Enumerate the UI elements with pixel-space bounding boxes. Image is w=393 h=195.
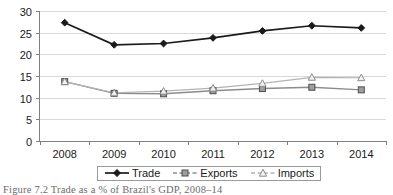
diamond-marker-icon	[104, 167, 130, 179]
legend-marker	[114, 169, 121, 176]
data-point-trade-2008	[61, 19, 68, 26]
data-point-trade-2013	[308, 22, 315, 29]
legend-item-trade: Trade	[104, 167, 160, 179]
legend-label: Exports	[200, 168, 237, 179]
x-axis-tick-label: 2013	[300, 148, 324, 160]
figure-container: 051015202530 200820092010201120122013201…	[0, 0, 393, 195]
y-axis-tick-label: 5	[26, 114, 32, 126]
legend-marker	[182, 170, 188, 176]
data-point-trade-2010	[160, 40, 167, 47]
y-axis-tick-label: 25	[20, 28, 32, 40]
x-axis-tick-label: 2010	[151, 148, 175, 160]
gridlines-group	[40, 12, 386, 120]
data-point-exports-2014	[358, 87, 364, 93]
y-axis-tick-label: 0	[26, 136, 32, 148]
data-point-trade-2014	[358, 25, 365, 32]
y-axis-tick-label: 30	[20, 6, 32, 18]
x-axis-tick-label: 2012	[250, 148, 274, 160]
x-axis-tick-label: 2011	[201, 148, 225, 160]
figure-caption: Figure 7.2 Trade as a % of Brazil's GDP,…	[3, 184, 222, 195]
y-axis-tick-label: 10	[20, 93, 32, 105]
x-axis-tick-label: 2009	[102, 148, 126, 160]
data-point-trade-2011	[210, 34, 217, 41]
y-axis-tick-label: 20	[20, 49, 32, 61]
series-markers-group	[61, 19, 365, 96]
y-axis-labels-group: 051015202530	[20, 6, 32, 148]
legend-label: Trade	[132, 168, 160, 179]
legend-item-imports: Imports	[250, 167, 315, 179]
chart-plot-area: 051015202530 200820092010201120122013201…	[0, 0, 393, 160]
triangle-marker-icon	[250, 167, 276, 179]
line-chart-svg: 051015202530 200820092010201120122013201…	[0, 0, 393, 160]
x-axis-labels-group: 2008200920102011201220132014	[52, 148, 373, 160]
y-axis-tick-label: 15	[20, 71, 32, 83]
x-axis-tick-label: 2014	[349, 148, 373, 160]
data-point-exports-2013	[309, 84, 315, 90]
legend-label: Imports	[278, 168, 315, 179]
data-point-trade-2009	[111, 41, 118, 48]
x-axis-tick-label: 2008	[52, 148, 76, 160]
chart-legend: TradeExportsImports	[97, 166, 321, 181]
square-marker-icon	[172, 167, 198, 179]
legend-item-exports: Exports	[172, 167, 237, 179]
